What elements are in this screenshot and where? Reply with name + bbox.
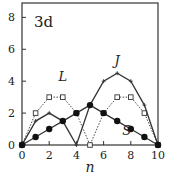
marker-circle-S [100,110,106,116]
marker-circle-S [87,102,93,108]
y-tick-label: 6 [8,43,15,56]
chart-panel-3d: 024681002468 3dLJSn [0,0,175,178]
marker-circle-S [73,110,79,116]
x-axis-label: n [85,159,94,175]
series-line-S [22,105,158,145]
marker-square-L [115,95,120,100]
x-tick-label: 0 [19,149,26,162]
x-tick-label: 6 [100,149,107,162]
marker-square-L [88,143,93,148]
y-tick-label: 2 [8,107,15,120]
series-line-J [22,73,158,145]
marker-square-L [129,95,134,100]
marker-square-L [47,95,52,100]
data-series [19,71,161,148]
marker-circle-S [46,126,52,132]
marker-circle-S [32,134,38,140]
y-tick-label: 8 [8,11,15,24]
series-label-L: L [57,69,67,84]
marker-circle-S [155,142,161,148]
marker-square-L [61,95,66,100]
marker-circle-S [141,134,147,140]
marker-circle-S [19,142,25,148]
marker-circle-S [60,118,66,124]
panel-label: 3d [34,13,54,31]
x-tick-label: 8 [127,149,134,162]
line-chart: 024681002468 3dLJSn [0,0,175,178]
x-tick-label: 10 [151,149,165,162]
series-label-S: S [122,123,131,138]
marker-circle-S [114,118,120,124]
y-tick-label: 0 [8,139,15,152]
series-label-J: J [112,53,121,68]
marker-square-L [33,111,38,116]
x-tick-label: 4 [73,149,80,162]
x-tick-label: 2 [46,149,53,162]
y-tick-label: 4 [8,75,15,88]
